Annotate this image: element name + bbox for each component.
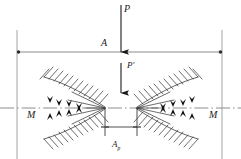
figure-canvas: P P′ A M M Ap (0, 0, 241, 159)
slip-line-field-diagram (0, 0, 241, 159)
label-moment-right: M (209, 110, 217, 120)
dimension-ap (101, 108, 141, 136)
label-dimension-ap: Ap (112, 140, 120, 151)
right-lower-shear-arrows (160, 106, 197, 134)
right-slip-line-fan (134, 67, 202, 149)
section-line-A (17, 50, 222, 53)
label-load-P: P (124, 4, 130, 14)
label-dimension-ap-sub: p (118, 145, 121, 151)
left-lower-shear-arrows (45, 106, 82, 134)
right-upper-shear-arrows (160, 82, 197, 110)
label-section-A: A (101, 38, 107, 48)
label-moment-left: M (27, 110, 35, 120)
left-upper-shear-arrows (45, 82, 82, 110)
label-load-P-prime: P′ (127, 61, 134, 70)
